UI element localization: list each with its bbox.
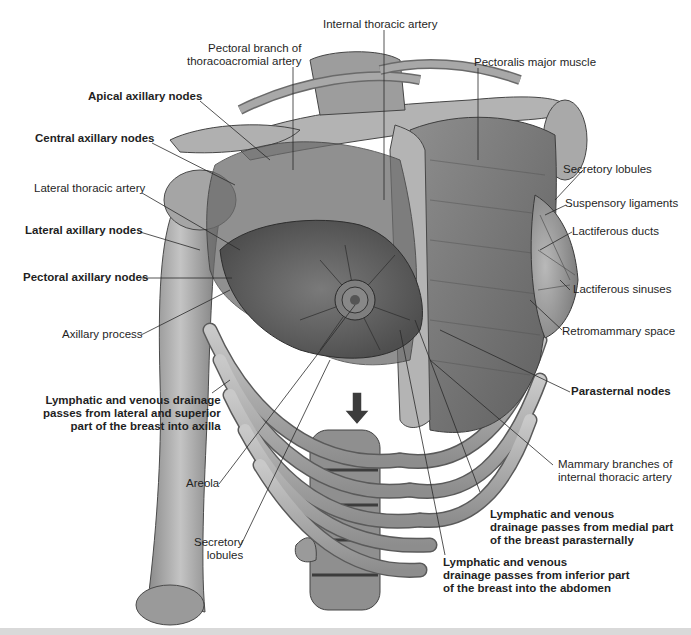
anatomy-figure: Internal thoracic artery Pectoral branch… [0,0,691,635]
label-pectoral-axillary-nodes: Pectoral axillary nodes [23,271,148,284]
left-breast [207,142,423,365]
footer-bar [0,628,691,635]
label-apical-axillary-nodes: Apical axillary nodes [88,90,202,103]
label-retromammary-space: Retromammary space [562,325,675,338]
down-arrow-icon [344,392,370,425]
label-secretory-lobules-bottom: Secretory lobules [194,536,243,562]
label-drainage-lateral-superior: Lymphatic and venous drainage passes fro… [43,394,221,433]
label-pectoral-branch-thoracoacromial-artery: Pectoral branch of thoracoacromial arter… [187,42,301,68]
breast-profile [531,195,578,338]
label-central-axillary-nodes: Central axillary nodes [35,132,155,145]
label-lactiferous-sinuses: Lactiferous sinuses [573,283,671,296]
label-internal-thoracic-artery: Internal thoracic artery [323,18,437,31]
label-lateral-axillary-nodes: Lateral axillary nodes [25,224,143,237]
label-parasternal-nodes: Parasternal nodes [571,385,671,398]
label-suspensory-ligaments: Suspensory ligaments [565,197,678,210]
label-areola: Areola [186,477,219,490]
label-pectoralis-major-muscle: Pectoralis major muscle [474,56,596,69]
label-mammary-branches: Mammary branches of internal thoracic ar… [558,458,672,484]
label-secretory-lobules-right: Secretory lobules [563,163,652,176]
label-drainage-inferior: Lymphatic and venous drainage passes fro… [443,556,630,595]
label-lateral-thoracic-artery: Lateral thoracic artery [34,182,145,195]
label-drainage-medial: Lymphatic and venous drainage passes fro… [490,508,673,547]
label-axillary-process: Axillary process [62,328,143,341]
label-lactiferous-ducts: Lactiferous ducts [572,225,659,238]
